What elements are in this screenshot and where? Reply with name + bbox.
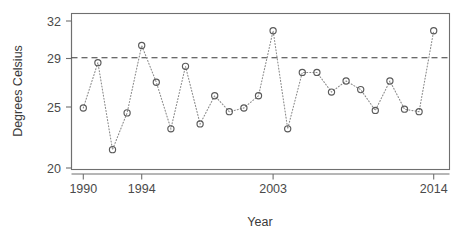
y-axis-title: Degrees Celsius xyxy=(11,45,25,137)
temperature-line-chart: 32 29 25 20 1990 1994 2003 2014 Degrees … xyxy=(0,0,462,242)
y-tick-label-25: 25 xyxy=(47,101,61,115)
x-tick-label-1994: 1994 xyxy=(128,182,156,196)
y-tick-label-32: 32 xyxy=(47,15,61,29)
x-tick-label-2014: 2014 xyxy=(420,182,448,196)
chart-background xyxy=(0,0,462,242)
y-tick-label-29: 29 xyxy=(47,52,61,66)
x-axis-title: Year xyxy=(247,215,272,229)
x-tick-label-1990: 1990 xyxy=(69,182,97,196)
y-tick-label-20: 20 xyxy=(47,162,61,176)
x-tick-label-2003: 2003 xyxy=(259,182,287,196)
